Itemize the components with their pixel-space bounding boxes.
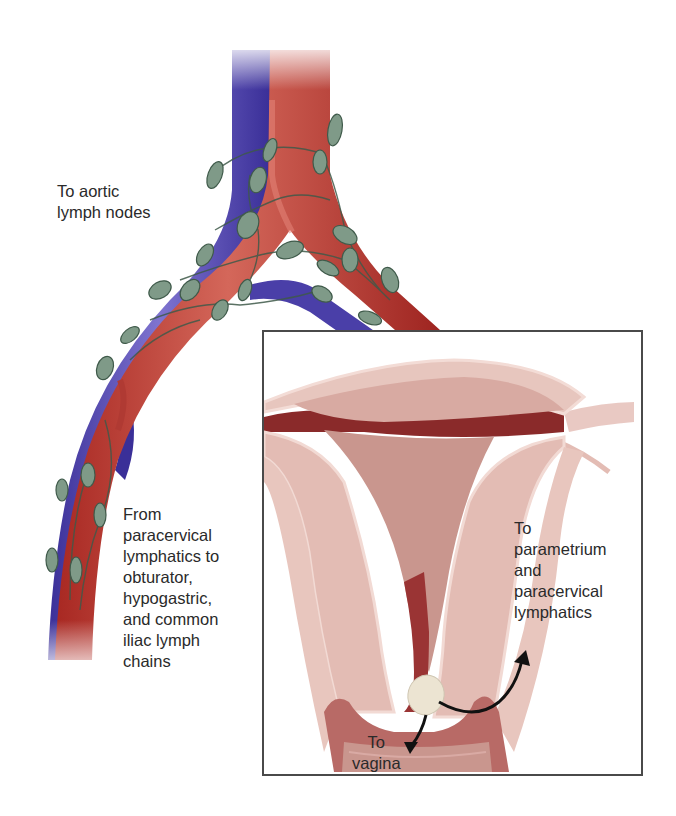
figure-canvas: To aortic lymph nodes From paracervical … bbox=[0, 0, 676, 816]
label-parametrium: To parametrium and paracervical lymphati… bbox=[514, 518, 607, 623]
label-aortic-lymph-nodes: To aortic lymph nodes bbox=[57, 181, 151, 223]
uterus-inset-box: To parametrium and paracervical lymphati… bbox=[262, 330, 643, 776]
label-vagina: To vagina bbox=[352, 732, 401, 774]
label-pelvic-lymph-chains: From paracervical lymphatics to obturato… bbox=[123, 504, 219, 672]
